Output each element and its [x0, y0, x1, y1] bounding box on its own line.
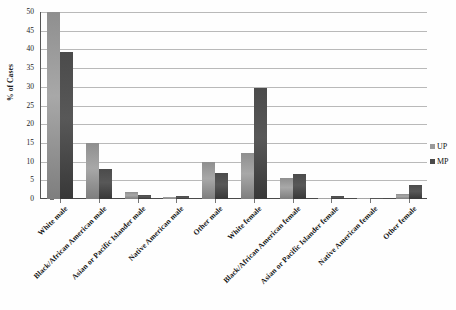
bar-mp[interactable] — [99, 169, 112, 199]
bar-group — [235, 12, 274, 199]
bar-group — [80, 12, 119, 199]
bar-group — [273, 12, 312, 199]
y-tick-label: 0 — [14, 195, 34, 203]
bar-mp[interactable] — [138, 195, 151, 199]
y-tick-label: 40 — [14, 46, 34, 54]
legend-item-mp[interactable]: MP — [430, 154, 456, 169]
bar-mp[interactable] — [60, 52, 73, 199]
bar-mp[interactable] — [409, 185, 422, 199]
y-tick-label: 50 — [14, 8, 34, 16]
chart-legend: UP MP — [430, 139, 456, 169]
y-tick-label: 20 — [14, 120, 34, 128]
bar-up[interactable] — [280, 178, 293, 199]
y-tick-label: 5 — [14, 177, 34, 185]
y-axis-tick-labels: 05101520253035404550 — [14, 12, 34, 199]
legend-label-up: UP — [437, 143, 447, 151]
bar-group — [157, 12, 196, 199]
bar-up[interactable] — [47, 12, 60, 199]
bar-group — [41, 12, 80, 199]
bar-up[interactable] — [241, 153, 254, 199]
bar-mp[interactable] — [331, 196, 344, 199]
bar-mp[interactable] — [293, 174, 306, 199]
bar-up[interactable] — [202, 162, 215, 199]
plot-area — [40, 12, 427, 199]
mp-swatch-icon — [430, 159, 435, 164]
bar-group — [196, 12, 235, 199]
bar-mp[interactable] — [176, 196, 189, 199]
bar-up[interactable] — [318, 198, 331, 199]
bar-group — [118, 12, 157, 199]
bar-chart: % of Cases 05101520253035404550 White ma… — [0, 0, 456, 310]
bar-group — [312, 12, 351, 199]
bar-group — [351, 12, 390, 199]
bars-layer — [41, 12, 427, 199]
legend-item-up[interactable]: UP — [430, 139, 456, 154]
up-swatch-icon — [430, 144, 435, 149]
y-tick-label: 25 — [14, 102, 34, 110]
y-tick-label: 35 — [14, 64, 34, 72]
y-tick-label: 15 — [14, 139, 34, 147]
bar-group — [389, 12, 428, 199]
bar-mp[interactable] — [370, 198, 383, 199]
bar-up[interactable] — [396, 194, 409, 199]
y-tick-label: 45 — [14, 27, 34, 35]
bar-up[interactable] — [86, 143, 99, 199]
bar-mp[interactable] — [215, 173, 228, 199]
bar-mp[interactable] — [254, 88, 267, 199]
bar-up[interactable] — [357, 198, 370, 199]
legend-label-mp: MP — [437, 158, 449, 166]
y-tick-label: 30 — [14, 83, 34, 91]
bar-up[interactable] — [163, 197, 176, 199]
bar-up[interactable] — [125, 192, 138, 199]
y-tick-label: 10 — [14, 158, 34, 166]
x-axis-tick-labels: White maleBlack/African American maleAsi… — [40, 200, 427, 308]
